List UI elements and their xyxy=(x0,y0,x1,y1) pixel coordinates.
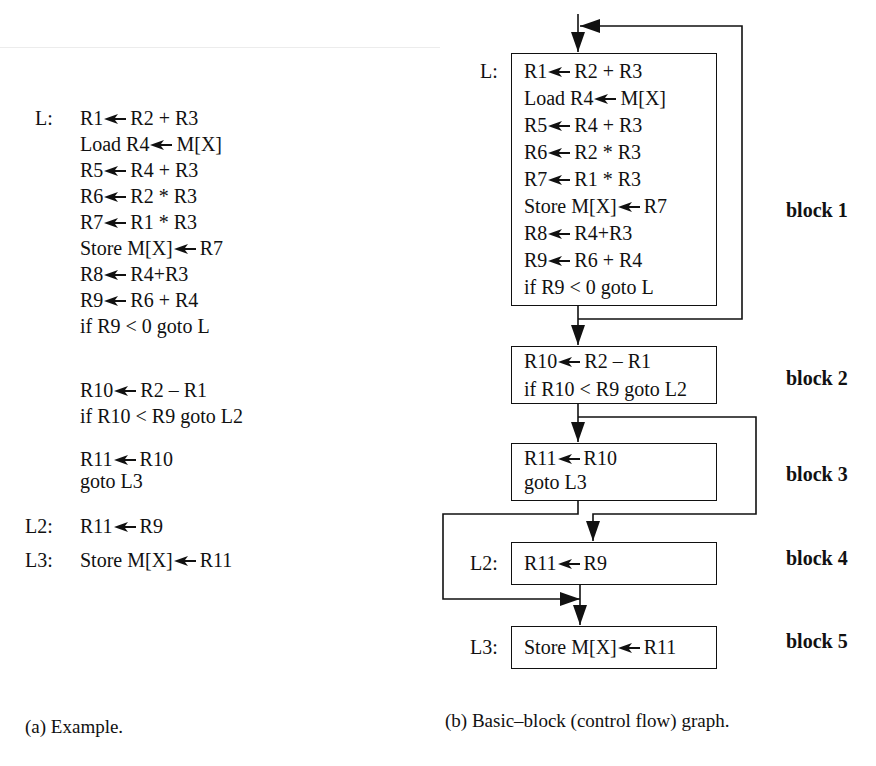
code-line: R5R4 + R3 xyxy=(524,112,642,138)
code-line: R6R2 * R3 xyxy=(524,139,641,165)
left-arrow-icon xyxy=(594,94,616,104)
block5-label-L3: L3: xyxy=(470,634,498,660)
code-line: R7R1 * R3 xyxy=(524,166,641,192)
left-arrow-icon xyxy=(558,357,580,367)
left-arrow-icon xyxy=(558,454,580,464)
block-4-title: block 4 xyxy=(786,547,848,570)
code-line: R10R2 – R1 xyxy=(524,348,651,374)
block-3-title: block 3 xyxy=(786,463,848,486)
block4-label-L2: L2: xyxy=(470,550,498,576)
caption-b: (b) Basic–block (control flow) graph. xyxy=(445,710,729,732)
block-5-title: block 5 xyxy=(786,630,848,653)
left-arrow-icon xyxy=(548,175,570,185)
left-arrow-icon xyxy=(548,256,570,266)
code-line: Store M[X]R11 xyxy=(524,634,676,660)
code-line: goto L3 xyxy=(524,469,587,495)
left-arrow-icon xyxy=(548,121,570,131)
left-arrow-icon xyxy=(548,148,570,158)
code-line: R8R4+R3 xyxy=(524,220,632,246)
code-line: Load R4M[X] xyxy=(524,85,666,111)
code-line: R11R10 xyxy=(524,445,617,471)
left-arrow-icon xyxy=(618,202,640,212)
left-arrow-icon xyxy=(558,559,580,569)
block1-label-L: L: xyxy=(480,58,498,84)
control-flow-edges xyxy=(0,0,876,766)
left-arrow-icon xyxy=(548,229,570,239)
code-line: R11R9 xyxy=(524,550,607,576)
code-line: R1R2 + R3 xyxy=(524,58,642,84)
block-1-title: block 1 xyxy=(786,199,848,222)
code-line: if R9 < 0 goto L xyxy=(524,274,654,300)
code-line: if R10 < R9 goto L2 xyxy=(524,376,687,402)
left-arrow-icon xyxy=(618,643,640,653)
code-line: Store M[X]R7 xyxy=(524,193,667,219)
code-line: R9R6 + R4 xyxy=(524,247,642,273)
left-arrow-icon xyxy=(548,67,570,77)
block-2-title: block 2 xyxy=(786,367,848,390)
